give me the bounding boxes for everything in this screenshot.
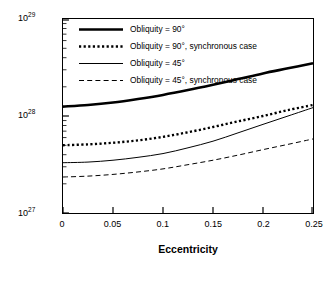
y-tick-label-2: 1029	[18, 11, 35, 23]
legend-swatch-dashed-thin	[78, 75, 124, 86]
legend-item-obliquity-90-sync: Obliquity = 90°, synchronous case	[78, 41, 257, 52]
legend-label-3: Obliquity = 45°, synchronous case	[130, 75, 257, 86]
legend-item-obliquity-90: Obliquity = 90°	[78, 24, 257, 35]
legend-swatch-solid-thin	[78, 58, 124, 69]
x-tick-label-5: 0.25	[305, 219, 323, 229]
x-tick-label-0: 0	[59, 219, 64, 229]
x-tick-label-1: 0.05	[104, 219, 122, 229]
legend-swatch-solid-thick	[78, 24, 124, 35]
legend: Obliquity = 90° Obliquity = 90°, synchro…	[78, 24, 257, 86]
x-tick-label-4: 0.2	[257, 219, 270, 229]
legend-item-obliquity-45-sync: Obliquity = 45°, synchronous case	[78, 75, 257, 86]
y-tick-label-0: 1027	[18, 206, 35, 218]
x-axis-label: Eccentricity	[62, 243, 314, 255]
series-path-2	[63, 108, 313, 163]
legend-item-obliquity-45: Obliquity = 45°	[78, 58, 257, 69]
legend-label-1: Obliquity = 90°, synchronous case	[130, 41, 257, 52]
x-tick-label-3: 0.15	[204, 219, 222, 229]
x-tick-label-2: 0.1	[157, 219, 170, 229]
tidal-dissipation-chart: Rate of Tidal Dissipation (erg/s) 1027 1…	[0, 0, 336, 283]
legend-label-2: Obliquity = 45°	[130, 58, 185, 69]
legend-swatch-dotted-thick	[78, 41, 124, 52]
minor-ticks	[63, 24, 66, 184]
series-path-1	[63, 105, 313, 145]
legend-label-0: Obliquity = 90°	[130, 24, 185, 35]
y-tick-label-1: 1028	[18, 108, 35, 120]
